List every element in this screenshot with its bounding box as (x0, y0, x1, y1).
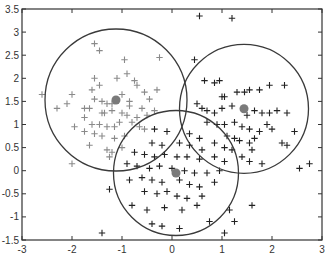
cluster-3-center-dot (172, 169, 181, 178)
y-tick-label: 0 (13, 165, 19, 176)
y-tick-label: 3.5 (5, 4, 19, 15)
y-tick-label: -0.5 (2, 188, 20, 199)
x-tick-label: 3 (319, 244, 325, 255)
plot-area (22, 9, 322, 240)
scatter-chart: -3-2-10123 3.532.521.510.50-0.5-1-1.5 (0, 0, 328, 263)
y-tick-label: 2.5 (5, 50, 19, 61)
x-tick-label: -2 (68, 244, 77, 255)
y-tick-label: -1 (10, 211, 19, 222)
cluster-2-center-dot (240, 104, 249, 113)
y-tick-label: 1.5 (5, 96, 19, 107)
cluster-1-center-dot (112, 96, 121, 105)
y-tick-label: 0.5 (5, 142, 19, 153)
x-tick-label: -1 (118, 244, 127, 255)
x-tick-label: -3 (18, 244, 27, 255)
y-tick-label: 1 (13, 119, 19, 130)
x-tick-label: 2 (269, 244, 275, 255)
y-tick-label: 3 (13, 27, 19, 38)
y-tick-label: 2 (13, 73, 19, 84)
x-tick-label: 0 (169, 244, 175, 255)
x-tick-label: 1 (219, 244, 225, 255)
y-tick-label: -1.5 (2, 235, 20, 246)
